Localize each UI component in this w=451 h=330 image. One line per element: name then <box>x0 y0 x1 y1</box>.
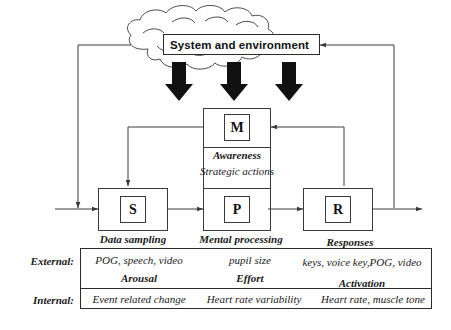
node-r-label: R <box>325 196 351 223</box>
cloud-to-node-arrows <box>165 62 303 101</box>
system-environment-box: System and environment <box>163 34 320 55</box>
strategic-actions-label: Strategic actions <box>176 165 298 177</box>
subcaption-effort: Effort <box>196 272 304 284</box>
table-cell-external-sampling: POG, speech, video <box>83 254 195 266</box>
subcaption-arousal: Arousal <box>83 272 195 284</box>
subcaption-activation: Activation <box>292 277 432 289</box>
caption-responses: Responses <box>302 236 398 248</box>
table-cell-internal-responses: Heart rate, muscle tone <box>311 293 435 305</box>
node-s-label: S <box>120 196 146 223</box>
table-cell-external-processing: pupil size <box>196 254 304 266</box>
row-label-internal: Internal: <box>8 294 74 306</box>
table-cell-internal-sampling: Event related change <box>83 293 195 305</box>
awareness-label: Awareness <box>213 149 261 161</box>
table-cell-external-responses: keys, voice key,POG, video <box>292 256 432 268</box>
caption-data-sampling: Data sampling <box>78 233 188 245</box>
caption-mental-processing: Mental processing <box>180 233 302 245</box>
node-p-label: P <box>224 196 250 223</box>
row-label-external: External: <box>8 255 74 267</box>
diagram-canvas: System and environment M Awareness Strat… <box>0 0 451 330</box>
table-cell-internal-processing: Heart rate variability <box>192 293 316 305</box>
node-m-label: M <box>224 114 250 141</box>
system-environment-label: System and environment <box>170 39 309 51</box>
